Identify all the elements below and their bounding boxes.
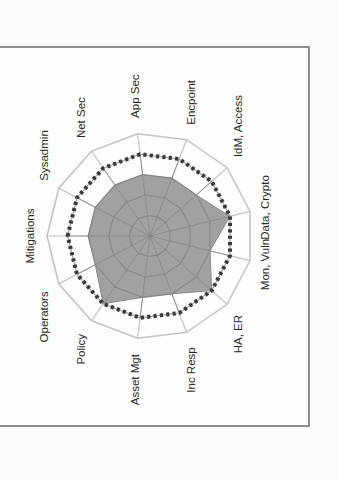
axis-label-asset-mgt: Asset Mgt [129,353,141,405]
axis-label-policy: Policy [75,334,87,365]
axis-label-net-sec: Net Sec [75,97,87,138]
axis-label-mon-vuln: Mon, Vuln [259,239,271,290]
axis-label-idm-access: IdM, Access [232,95,244,157]
axis-label-mitigations: Mitigations [24,208,36,263]
axis-label-sysadmin: Sysadmin [38,130,50,181]
axis-label-encpoint: Encpoint [185,79,197,125]
axis-label-operators: Operators [38,291,50,342]
axis-label-ha-er: HA, ER [232,315,244,353]
axis-label-app-sec: App Sec [129,74,141,118]
axis-label-inc-resp: Inc Resp [185,347,197,392]
radar-chart: MitigationsSysadminNet SecApp SecEncpoin… [0,0,338,481]
axis-label-data-crypto: Data, Crypto [259,175,271,240]
